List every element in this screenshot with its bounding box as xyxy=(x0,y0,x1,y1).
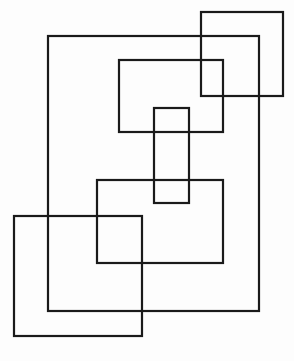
lower-middle-rectangle xyxy=(97,180,223,263)
diagram-canvas xyxy=(0,0,294,361)
overlapping-rectangles-diagram xyxy=(0,0,294,361)
narrow-vertical-rectangle xyxy=(154,108,189,203)
bottom-left-square xyxy=(14,216,142,336)
top-right-square xyxy=(201,12,283,96)
